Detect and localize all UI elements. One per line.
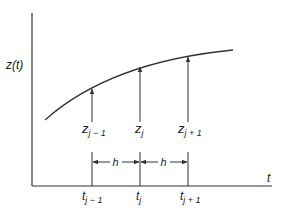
t-label-j: tj bbox=[136, 189, 142, 205]
z-label-j-minus-1: zj − 1 bbox=[81, 121, 106, 138]
t-label-j-plus-1: tj + 1 bbox=[180, 189, 201, 205]
z-label-j-plus-1: zj + 1 bbox=[177, 121, 202, 138]
z-label-j: zj bbox=[134, 121, 145, 138]
h-label-right: h bbox=[161, 156, 167, 168]
x-axis-label: t bbox=[267, 171, 271, 185]
y-axis-label: z(t) bbox=[5, 58, 23, 72]
function-curve bbox=[45, 50, 233, 120]
h-label-left: h bbox=[113, 156, 119, 168]
t-label-j-minus-1: tj − 1 bbox=[82, 189, 103, 205]
finite-difference-diagram: z(t) t h h zj − 1 zj zj + 1 tj − 1 tj tj… bbox=[0, 0, 285, 216]
